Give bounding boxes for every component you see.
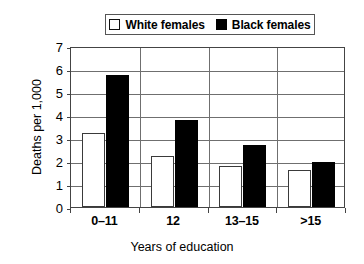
- y-tick-mark: [67, 94, 71, 95]
- y-tick-label: 6: [43, 64, 63, 77]
- chart-legend: White females Black females: [105, 14, 315, 35]
- legend-label-white-females: White females: [125, 19, 204, 31]
- y-tick-label: 1: [43, 179, 63, 192]
- x-tick-mark: [345, 208, 346, 213]
- y-axis-title: Deaths per 1,000: [30, 42, 44, 212]
- bar-white-females: [151, 156, 174, 207]
- legend-entry-black-females: Black females: [216, 19, 311, 31]
- bar-black-females: [175, 120, 198, 207]
- x-group-separator: [140, 48, 141, 207]
- y-tick-mark: [67, 117, 71, 118]
- x-tick-mark: [70, 208, 71, 213]
- y-tick-label: 3: [43, 133, 63, 146]
- x-tick-mark: [208, 208, 209, 213]
- y-tick-mark: [67, 71, 71, 72]
- bar-black-females: [312, 162, 335, 207]
- y-tick-mark: [67, 163, 71, 164]
- x-group-separator: [209, 48, 210, 207]
- black-square-icon: [216, 19, 227, 30]
- bar-white-females: [288, 170, 311, 207]
- bar-chart-figure: White females Black females Deaths per 1…: [0, 0, 364, 264]
- y-tick-mark: [67, 140, 71, 141]
- bar-black-females: [106, 75, 129, 207]
- x-tick-mark: [139, 208, 140, 213]
- y-tick-label: 2: [43, 156, 63, 169]
- gridline: [71, 71, 344, 72]
- bar-white-females: [82, 133, 105, 207]
- legend-entry-white-females: White females: [109, 19, 204, 31]
- x-axis-title: Years of education: [0, 240, 364, 254]
- x-group-separator: [277, 48, 278, 207]
- y-tick-label: 4: [43, 110, 63, 123]
- x-category-label: >15: [271, 214, 351, 228]
- legend-label-black-females: Black females: [232, 19, 311, 31]
- bar-black-females: [243, 145, 266, 207]
- x-tick-mark: [276, 208, 277, 213]
- plot-area: [70, 47, 345, 208]
- y-tick-label: 0: [43, 202, 63, 215]
- bar-white-females: [219, 166, 242, 207]
- y-tick-mark: [67, 48, 71, 49]
- y-tick-mark: [67, 186, 71, 187]
- y-tick-label: 7: [43, 41, 63, 54]
- white-square-icon: [109, 19, 120, 30]
- y-tick-label: 5: [43, 87, 63, 100]
